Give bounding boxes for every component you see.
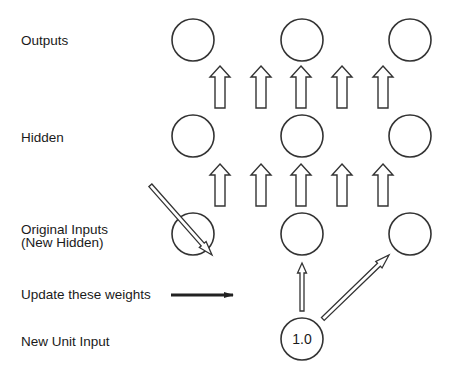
label-update-weights: Update these weights	[21, 288, 151, 301]
thin-arrow-diagonal-right-icon	[320, 252, 392, 322]
output-node-1	[172, 19, 214, 61]
output-layer	[172, 19, 431, 61]
input-layer	[172, 213, 431, 255]
new-unit-value: 1.0	[292, 331, 312, 347]
hidden-to-output-arrows	[210, 66, 393, 108]
block-arrow-up-icon	[291, 66, 311, 108]
network-diagram: 1.0 Outputs Hidden Original Inputs (New …	[0, 0, 451, 377]
label-outputs: Outputs	[21, 34, 68, 47]
label-new-hidden: (New Hidden)	[21, 236, 104, 249]
block-arrow-up-icon	[332, 164, 352, 206]
diagram-canvas: 1.0	[0, 0, 451, 377]
label-hidden: Hidden	[21, 131, 64, 144]
block-arrow-up-icon	[210, 66, 230, 108]
block-arrow-up-icon	[332, 66, 352, 108]
input-node-3	[389, 213, 431, 255]
block-arrow-up-icon	[210, 164, 230, 206]
block-arrow-up-icon	[291, 164, 311, 206]
input-node-2	[281, 213, 323, 255]
hidden-node-1	[172, 115, 214, 157]
block-arrow-up-icon	[251, 66, 271, 108]
thin-arrow-diagonal-left-icon	[147, 182, 215, 258]
thin-arrow-up-icon	[298, 263, 307, 311]
output-node-3	[389, 19, 431, 61]
input-to-hidden-arrows	[210, 164, 393, 206]
hidden-layer	[172, 115, 431, 157]
label-new-unit-input: New Unit Input	[21, 335, 110, 348]
new-unit-node: 1.0	[281, 318, 323, 360]
output-node-2	[281, 19, 323, 61]
block-arrow-up-icon	[373, 164, 393, 206]
block-arrow-up-icon	[373, 66, 393, 108]
block-arrow-up-icon	[251, 164, 271, 206]
hidden-node-2	[281, 115, 323, 157]
hidden-node-3	[389, 115, 431, 157]
